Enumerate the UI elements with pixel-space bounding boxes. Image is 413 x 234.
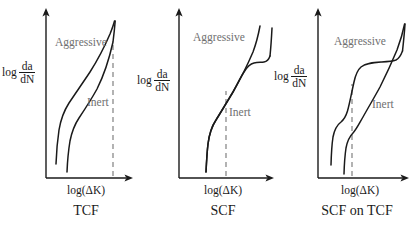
y-axis-label-prefix: log — [2, 67, 17, 79]
y-axis-denominator: dN — [154, 80, 170, 93]
x-axis-label: log(ΔK) — [318, 184, 402, 196]
y-axis — [175, 8, 182, 178]
curve-label-aggressive: Aggressive — [193, 31, 245, 43]
curve-inert — [206, 26, 260, 172]
y-axis-label: log da dN — [274, 64, 307, 90]
curve-label-inert: Inert — [229, 106, 251, 118]
x-axis-label: log(ΔK) — [46, 184, 126, 196]
y-axis-label-fraction: da dN — [291, 64, 307, 90]
panel-tcf: log da dN Aggressive Inert log(ΔK) TCF — [0, 0, 137, 234]
panel-caption-tcf: TCF — [36, 203, 136, 219]
curve-label-inert: Inert — [372, 98, 394, 110]
y-axis-label: log da dN — [2, 60, 35, 86]
y-axis-numerator: da — [293, 64, 306, 76]
curve-aggressive-upper — [270, 28, 272, 56]
panel-caption-scf-on-tcf: SCF on TCF — [302, 203, 412, 219]
y-axis-label-fraction: da dN — [19, 60, 35, 86]
y-axis-numerator: da — [156, 68, 169, 80]
fatigue-crack-growth-figure: log da dN Aggressive Inert log(ΔK) TCF — [0, 0, 413, 234]
x-axis — [46, 174, 133, 181]
y-axis-label-prefix: log — [274, 71, 289, 83]
panel-scf: log da dN Aggressive Inert log(ΔK) SCF — [137, 0, 274, 234]
x-axis-label: log(ΔK) — [179, 184, 267, 196]
y-axis-denominator: dN — [19, 72, 35, 85]
curve-label-aggressive: Aggressive — [334, 35, 386, 47]
y-axis — [42, 8, 49, 178]
y-axis — [314, 8, 321, 178]
y-axis-label: log da dN — [137, 68, 170, 94]
curve-label-aggressive: Aggressive — [55, 36, 107, 48]
y-axis-label-prefix: log — [137, 75, 152, 87]
panel-caption-scf: SCF — [173, 203, 273, 219]
curve-label-inert: Inert — [87, 96, 109, 108]
y-axis-label-fraction: da dN — [154, 68, 170, 94]
y-axis-denominator: dN — [291, 76, 307, 89]
x-axis — [318, 174, 409, 181]
panel-scf-on-tcf: log da dN Aggressive Inert log(ΔK) SCF o… — [274, 0, 413, 234]
y-axis-numerator: da — [21, 60, 34, 72]
